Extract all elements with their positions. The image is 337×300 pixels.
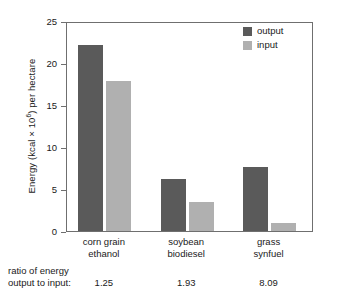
y-axis-title: Energy (kcal × 106) per hectare	[25, 26, 37, 226]
y-axis-tick-label: 15	[46, 100, 57, 111]
legend-item-output: output	[243, 25, 283, 37]
y-axis-title-exponent: 6	[25, 114, 32, 118]
legend-item-input: input	[243, 39, 283, 51]
bar-input-grass-synfuel	[271, 223, 296, 231]
legend: output input	[243, 25, 283, 53]
legend-swatch-input	[243, 41, 252, 50]
bar-output-grass-synfuel	[243, 167, 268, 231]
legend-label-output: output	[257, 26, 283, 36]
ratio-value-grass-synfuel: 8.09	[229, 277, 309, 288]
x-axis-label-grass-synfuel: grasssynfuel	[219, 236, 319, 259]
bar-input-corn-grain-ethanol	[106, 81, 131, 231]
legend-label-input: input	[257, 40, 278, 50]
ratio-caption-line-2: output to input:	[8, 277, 71, 289]
y-axis-tick-label: 25	[46, 16, 57, 27]
y-axis-title-prefix: Energy (kcal × 10	[26, 118, 37, 194]
y-axis-tick-label: 10	[46, 142, 57, 153]
x-axis-label-line: grass	[219, 236, 319, 248]
ratio-value-soybean-biodiesel: 1.93	[146, 277, 226, 288]
ratio-value-corn-grain-ethanol: 1.25	[64, 277, 144, 288]
energy-balance-bar-chart: Energy (kcal × 106) per hectare 05101520…	[0, 0, 337, 300]
x-axis-label-line: synfuel	[219, 248, 319, 260]
y-axis-title-suffix: ) per hectare	[26, 59, 37, 114]
bar-input-soybean-biodiesel	[189, 202, 214, 231]
bar-output-corn-grain-ethanol	[78, 45, 103, 231]
ratio-caption: ratio of energy output to input:	[8, 265, 71, 288]
bar-output-soybean-biodiesel	[161, 179, 186, 231]
legend-swatch-output	[243, 27, 252, 36]
y-axis-tick-label: 5	[52, 184, 57, 195]
y-axis-tick-label: 20	[46, 58, 57, 69]
ratio-caption-line-1: ratio of energy	[8, 265, 71, 277]
plot-area: output input	[66, 22, 313, 232]
